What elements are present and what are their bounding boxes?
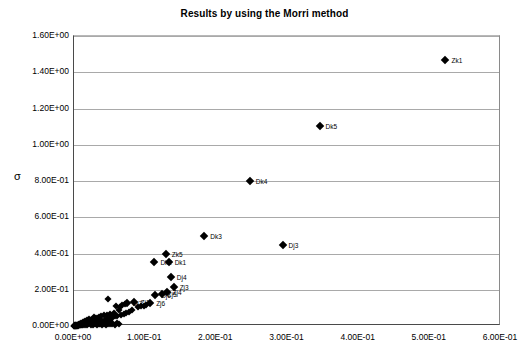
gridline <box>74 72 499 73</box>
data-point <box>116 304 123 311</box>
data-point <box>137 303 144 310</box>
data-point <box>105 296 112 303</box>
data-point <box>150 257 158 265</box>
data-point <box>112 303 119 310</box>
x-tick-label: 2.00E-01 <box>198 332 233 342</box>
data-point <box>93 319 100 326</box>
gridline <box>74 181 499 182</box>
data-point <box>80 318 87 325</box>
data-point <box>79 319 86 326</box>
data-point-label: Dj7 <box>133 299 143 306</box>
data-point <box>119 301 126 308</box>
data-point <box>92 315 99 322</box>
data-point <box>89 316 96 323</box>
data-point <box>112 313 119 320</box>
gridline <box>74 290 499 291</box>
data-point-label: Dk5 <box>326 122 338 129</box>
data-point-label: Zj1 <box>140 298 149 305</box>
data-point <box>106 318 113 325</box>
data-point <box>94 314 101 321</box>
data-point <box>278 241 286 249</box>
data-point <box>100 318 107 325</box>
data-point <box>441 56 449 64</box>
data-point <box>142 301 149 308</box>
data-point <box>107 310 114 317</box>
data-point <box>122 299 130 307</box>
data-point <box>85 318 92 325</box>
data-point-label: Dj6 <box>161 292 171 299</box>
data-point <box>88 316 95 323</box>
data-point <box>101 316 108 323</box>
data-point <box>121 300 128 307</box>
data-point <box>162 287 170 295</box>
data-point-labels: Zk1Dk5Dk4Dk3Dj3Zk5Dk2Dk1Dj4Zj3Zj4Zj5Dj6Z… <box>74 36 499 324</box>
data-point <box>120 310 127 317</box>
data-point <box>117 311 124 318</box>
data-point <box>82 317 89 324</box>
data-point <box>100 311 107 318</box>
x-tick-label: 5.00E-01 <box>412 332 447 342</box>
data-point-label: Dj3 <box>289 241 299 248</box>
data-point <box>88 318 95 325</box>
data-point <box>83 317 90 324</box>
x-tick-label: 4.00E-01 <box>340 332 375 342</box>
data-point <box>164 258 172 266</box>
data-point <box>167 272 175 280</box>
data-point <box>93 318 100 325</box>
data-point <box>103 312 110 319</box>
data-point <box>122 309 129 316</box>
data-point <box>85 315 92 322</box>
data-point <box>200 232 208 240</box>
data-point <box>90 314 97 321</box>
data-point-label: Zk1 <box>451 56 462 63</box>
data-point <box>110 314 117 321</box>
data-point <box>110 309 117 316</box>
scatter-chart: Results by using the Morri method σ 0.00… <box>0 0 529 351</box>
data-point <box>130 297 138 305</box>
data-point-label: Zj6 <box>156 299 165 306</box>
data-point <box>135 304 142 311</box>
data-point <box>97 316 104 323</box>
data-point <box>97 312 104 319</box>
gridline <box>74 36 499 37</box>
data-point-label: Dk1 <box>175 259 187 266</box>
data-point <box>103 316 110 323</box>
data-point-label: Dk3 <box>210 232 222 239</box>
x-tick-label: 6.00E-01 <box>483 332 518 342</box>
data-point <box>128 307 135 314</box>
data-point <box>157 290 165 298</box>
data-point <box>86 317 93 324</box>
gridline <box>74 217 499 218</box>
gridline <box>74 145 499 146</box>
data-point <box>115 307 122 314</box>
x-tick-label: 1.00E-01 <box>127 332 162 342</box>
gridline <box>74 109 499 110</box>
data-point <box>146 299 154 307</box>
data-point-label: Zj5 <box>168 291 177 298</box>
data-point <box>95 313 102 320</box>
data-point <box>105 315 112 322</box>
plot-area: Zk1Dk5Dk4Dk3Dj3Zk5Dk2Dk1Dj4Zj3Zj4Zj5Dj6Z… <box>73 35 500 325</box>
gridline <box>74 254 499 255</box>
x-tick-label: 3.00E-01 <box>269 332 304 342</box>
data-point <box>84 318 91 325</box>
data-point <box>95 317 102 324</box>
data-point <box>99 317 106 324</box>
x-tick-label: 0.00E+00 <box>55 332 92 342</box>
labeled-data-points <box>74 36 499 324</box>
data-point <box>114 312 121 319</box>
data-point <box>140 302 147 309</box>
data-point <box>151 291 159 299</box>
data-point <box>125 308 132 315</box>
data-point <box>104 319 111 326</box>
data-point-label: Dk2 <box>160 258 172 265</box>
data-point-label: Dj4 <box>177 273 187 280</box>
data-point-cluster <box>74 36 499 324</box>
data-point <box>107 314 114 321</box>
data-point <box>315 121 323 129</box>
